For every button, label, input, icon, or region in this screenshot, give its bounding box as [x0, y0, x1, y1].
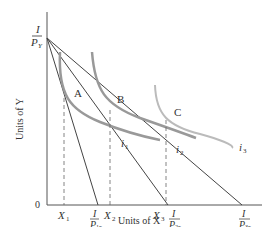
x-intercept-p1x: I P 1x: [89, 208, 102, 227]
x-tick-x2: X 2: [103, 209, 116, 223]
svg-text:I: I: [35, 23, 41, 35]
indifference-curve-i3: [155, 85, 232, 148]
svg-text:3: 3: [243, 147, 247, 155]
svg-text:2x: 2x: [175, 224, 181, 227]
point-c: C: [174, 106, 181, 118]
svg-text:I: I: [171, 208, 176, 219]
point-b: B: [117, 93, 124, 105]
y-intercept-label: I P Y: [30, 23, 43, 50]
svg-text:Y: Y: [38, 42, 43, 50]
svg-text:2: 2: [112, 215, 116, 223]
diagram-canvas: I P Y Units of Y 0 X 1 X 2 X 3 I P 1x I …: [0, 0, 273, 227]
svg-text:I: I: [92, 208, 97, 219]
y-axis-label: Units of Y: [14, 98, 25, 140]
svg-text:1x: 1x: [96, 224, 102, 227]
curve-label-i3: i 3: [239, 141, 247, 155]
svg-text:X: X: [57, 209, 66, 221]
budget-line-1: [47, 38, 98, 205]
svg-text:i: i: [121, 137, 124, 149]
curve-label-i2: i 2: [176, 143, 184, 157]
x-intercept-p2x: I P 2x: [168, 208, 181, 227]
svg-text:X: X: [103, 209, 112, 221]
x-axis-label: Units of X: [118, 215, 161, 226]
svg-text:1: 1: [125, 143, 129, 151]
svg-text:i: i: [176, 143, 179, 155]
svg-text:i: i: [239, 141, 242, 153]
x-intercept-p3x: I P 3x: [238, 208, 251, 227]
x-tick-x1: X 1: [57, 209, 70, 223]
svg-text:1: 1: [66, 215, 70, 223]
origin-label: 0: [35, 199, 40, 210]
svg-text:I: I: [241, 208, 246, 219]
svg-text:P: P: [30, 36, 38, 48]
point-a: A: [74, 87, 82, 99]
svg-text:3x: 3x: [245, 224, 251, 227]
svg-text:3: 3: [161, 215, 165, 223]
svg-text:2: 2: [180, 149, 184, 157]
budget-line-3: [47, 38, 242, 205]
curve-label-i1: i 1: [121, 137, 129, 151]
